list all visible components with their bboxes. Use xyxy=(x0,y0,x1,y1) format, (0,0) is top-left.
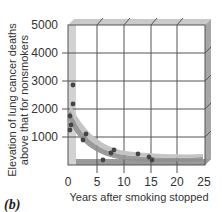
data-point xyxy=(71,102,76,107)
y-tick: 1000 xyxy=(31,130,58,144)
trend-band xyxy=(68,104,203,162)
data-point xyxy=(101,158,106,163)
x-tick: 10 xyxy=(117,175,131,189)
data-point xyxy=(84,132,89,137)
y-tick: 4000 xyxy=(31,46,58,60)
data-point xyxy=(69,123,74,128)
x-tick: 0 xyxy=(65,175,72,189)
x-axis-label: Years after smoking stopped xyxy=(69,191,208,203)
data-point xyxy=(71,83,76,88)
y-axis-label-line2: above that for nonsmokers xyxy=(18,34,30,165)
grid xyxy=(62,18,211,173)
data-point xyxy=(81,138,86,143)
data-point xyxy=(68,114,73,119)
chart-svg: 5000 4000 3000 2000 1000 0 5 10 15 20 25… xyxy=(0,0,222,212)
x-axis-ticks: 0 5 10 15 20 25 xyxy=(65,175,211,189)
data-point xyxy=(136,152,141,157)
x-tick: 25 xyxy=(197,175,211,189)
y-tick: 2000 xyxy=(31,102,58,116)
data-point xyxy=(150,158,155,163)
y-tick: 3000 xyxy=(31,74,58,88)
x-tick: 15 xyxy=(144,175,158,189)
y-tick: 5000 xyxy=(31,18,58,32)
panel-label: (b) xyxy=(4,197,20,212)
y-axis-label-line1: Elevation of lung cancer deaths xyxy=(6,23,18,177)
data-point xyxy=(68,128,73,133)
x-tick: 5 xyxy=(94,175,101,189)
y-axis-ticks: 5000 4000 3000 2000 1000 xyxy=(31,18,58,144)
data-point xyxy=(109,151,114,156)
x-tick: 20 xyxy=(170,175,184,189)
